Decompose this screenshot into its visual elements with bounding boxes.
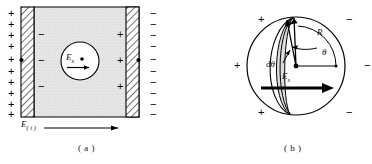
- sphere-right-charge: −: [364, 60, 370, 71]
- cavity-field-label: Es: [66, 52, 74, 64]
- left-inside-charge: −: [38, 81, 44, 92]
- left-inside-charge: −: [38, 55, 44, 66]
- sphere-right-charge: −: [346, 14, 352, 25]
- applied-field-arrow: [44, 126, 118, 131]
- cavity-field-subscript: s: [72, 57, 75, 64]
- panel-a-drawing: [0, 0, 186, 164]
- sphere-field-label: Es: [282, 71, 290, 83]
- left-outside-charge: +: [8, 54, 14, 65]
- panel-b-caption: ( b ): [284, 143, 302, 153]
- sphere-right-charge: −: [346, 107, 352, 118]
- dtheta-label: dθ: [266, 59, 275, 69]
- applied-field-subscript: ( i ): [27, 124, 36, 131]
- dtheta-symbol: θ: [271, 59, 275, 69]
- applied-field-label: E( i ): [21, 119, 36, 131]
- left-plate: [21, 7, 34, 117]
- sphere-field-subscript: s: [288, 76, 291, 83]
- panel-a-caption: ( a ): [78, 143, 95, 153]
- left-terminal-node: [19, 58, 23, 62]
- right-inside-charge: +: [117, 81, 123, 92]
- left-outside-charge: +: [8, 109, 14, 120]
- figure-panel-b: + + + − − − R θ dθ Es ( b ): [186, 0, 372, 164]
- right-terminal-node: [136, 58, 140, 62]
- right-inside-charge: +: [117, 55, 123, 66]
- sphere-left-charge: +: [258, 107, 264, 118]
- figure-panel-a: + + + + + + + + + + − − − + + + − − − − …: [0, 0, 186, 164]
- right-inside-charge: +: [117, 29, 123, 40]
- sphere-left-charge: +: [234, 60, 240, 71]
- panel-b-drawing: [186, 0, 372, 164]
- right-plate: [126, 7, 139, 117]
- left-outside-charge: +: [8, 41, 14, 52]
- theta-label: θ: [322, 47, 326, 57]
- cavity-center-dot: [80, 57, 84, 61]
- left-inside-charge: −: [38, 29, 44, 40]
- right-outside-charge: −: [150, 41, 156, 52]
- radius-label: R: [317, 27, 323, 37]
- right-outside-charge: −: [150, 109, 156, 120]
- sphere-left-charge: +: [258, 14, 264, 25]
- right-outside-charge: −: [150, 54, 156, 65]
